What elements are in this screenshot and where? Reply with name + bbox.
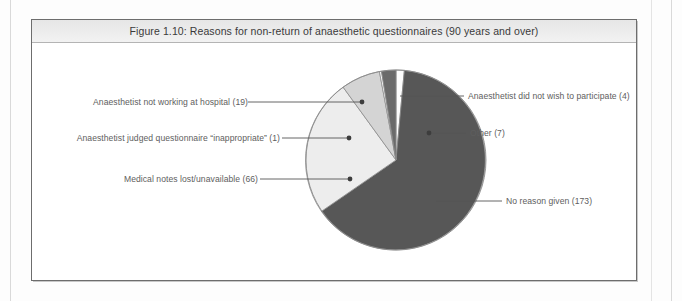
figure-frame: Figure 1.10: Reasons for non-return of a… <box>31 19 637 281</box>
page-edge-line-left <box>10 0 11 301</box>
page-edge-line-right <box>671 0 672 301</box>
pie-label-other: Other (7) <box>470 128 505 138</box>
pie-label-questionnaire-inappropriate: Anaesthetist judged questionnaire “inapp… <box>34 133 280 143</box>
pie-label-not-working-at-hospital: Anaesthetist not working at hospital (19… <box>40 97 248 107</box>
page-edge-line-inner-right <box>651 0 652 301</box>
leader-dot-not-working <box>360 100 365 105</box>
page-canvas: Figure 1.10: Reasons for non-return of a… <box>0 0 682 301</box>
pie-label-not-wish-to-participate: Anaesthetist did not wish to participate… <box>468 91 630 101</box>
pie-label-no-reason-given: No reason given (173) <box>506 196 592 206</box>
leader-dot-other <box>427 131 432 136</box>
leader-dot-medical-notes <box>348 177 353 182</box>
pie-chart-svg <box>32 43 636 280</box>
leader-dot-inappropriate <box>347 136 352 141</box>
pie-chart-plot-area: Anaesthetist not working at hospital (19… <box>32 43 636 280</box>
figure-title-bar: Figure 1.10: Reasons for non-return of a… <box>32 20 636 43</box>
figure-title: Figure 1.10: Reasons for non-return of a… <box>130 25 539 37</box>
pie-slices <box>306 70 486 250</box>
pie-label-medical-notes-lost: Medical notes lost/unavailable (66) <box>60 174 258 184</box>
